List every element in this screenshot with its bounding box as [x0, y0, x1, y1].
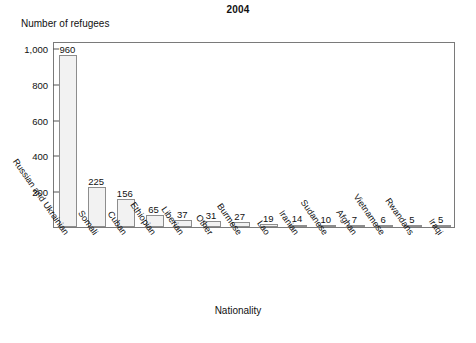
y-axis-tick-mark [53, 156, 59, 157]
y-axis-tick-mark [53, 84, 59, 85]
y-axis-tick-mark [53, 192, 59, 193]
bar-value-label: 156 [117, 188, 133, 199]
y-axis-tick-mark [53, 49, 59, 50]
y-axis-title: Number of refugees [21, 18, 109, 29]
y-axis-tick-label: 800 [32, 79, 48, 90]
y-axis-tick-label: 1,000 [24, 44, 48, 55]
bar [59, 55, 77, 227]
y-axis-tick-label: 600 [32, 115, 48, 126]
y-axis-tick-mark [53, 120, 59, 121]
bar-value-label: 960 [59, 44, 75, 55]
bar-value-label: 65 [148, 204, 159, 215]
bar-value-label: 225 [88, 176, 104, 187]
x-axis-title: Nationality [0, 305, 476, 316]
chart-title: 2004 [0, 4, 476, 15]
y-axis-tick-label: 400 [32, 151, 48, 162]
bar-value-label: 37 [177, 209, 188, 220]
chart-figure: 2004 Number of refugees 2004006008001,00… [0, 0, 476, 343]
